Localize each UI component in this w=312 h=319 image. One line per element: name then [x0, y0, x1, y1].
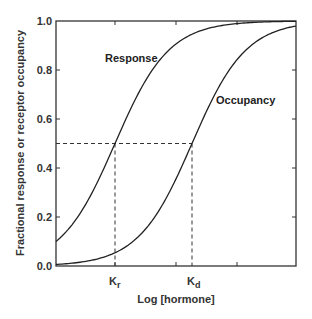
response-label: Response: [105, 52, 158, 64]
y-tick-label: 1.0: [37, 15, 52, 27]
y-tick-label: 0.8: [37, 64, 52, 76]
kd-label: Kd: [187, 275, 200, 290]
y-tick-label: 0.0: [37, 260, 52, 272]
kr-label: Kr: [109, 275, 121, 290]
occupancy-label: Occupancy: [216, 94, 276, 106]
response-curve: [56, 21, 296, 241]
y-axis-title: Fractional response or receptor occupanc…: [14, 29, 26, 256]
y-tick-label: 0.4: [37, 162, 53, 174]
occupancy-curve: [56, 26, 296, 264]
y-tick-label: 0.6: [37, 113, 52, 125]
y-tick-label: 0.2: [37, 211, 52, 223]
chart: 0.0 0.2 0.4 0.6 0.8 1.0 Response Occupan…: [0, 0, 312, 319]
x-axis-title: Log [hormone]: [137, 293, 215, 305]
